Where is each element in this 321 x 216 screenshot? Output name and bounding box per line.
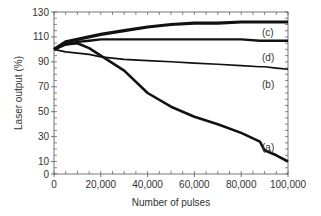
y-tick-label: 30	[38, 131, 50, 142]
series-line-c	[54, 22, 288, 49]
series-label-d: (d)	[262, 52, 274, 63]
y-axis-title: Laser output (%)	[13, 56, 24, 130]
x-tick-label: 20,000	[86, 179, 117, 190]
series-label-c: (c)	[262, 27, 274, 38]
series-label-b: (b)	[262, 79, 274, 90]
series-lines	[54, 22, 288, 162]
x-tick-label: 0	[51, 179, 57, 190]
x-tick-label: 40,000	[132, 179, 163, 190]
series-line-b	[54, 49, 288, 69]
y-tick-label: 90	[38, 56, 50, 67]
line-chart: 01030507090110130 020,00040,00060,00080,…	[0, 0, 321, 216]
x-tick-label: 60,000	[179, 179, 210, 190]
y-axis: 01030507090110130	[32, 7, 288, 180]
y-tick-label: 130	[32, 7, 49, 18]
x-axis-title: Number of pulses	[132, 197, 210, 208]
series-line-a	[54, 43, 288, 161]
x-tick-label: 100,000	[270, 179, 307, 190]
y-tick-label: 50	[38, 106, 50, 117]
y-tick-label: 70	[38, 81, 50, 92]
x-tick-label: 80,000	[226, 179, 257, 190]
y-tick-label: 10	[38, 156, 50, 167]
y-tick-label: 110	[33, 31, 49, 42]
series-labels: (a)(b)(c)(d)	[262, 27, 274, 153]
series-label-a: (a)	[262, 142, 274, 153]
y-tick-label: 0	[43, 169, 49, 180]
